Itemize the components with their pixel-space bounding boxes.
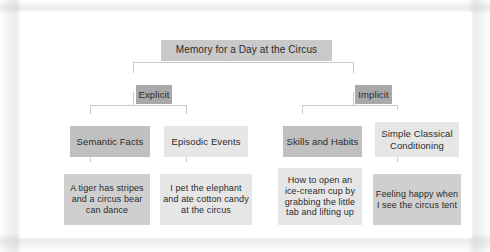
node-root[interactable]: Memory for a Day at the Circus bbox=[161, 40, 332, 61]
node-episodic-events[interactable]: Episodic Events bbox=[164, 126, 248, 157]
connector-to-implicit bbox=[353, 62, 354, 73]
connector-explicit-stem bbox=[133, 92, 134, 105]
connector-to-semantic-facts bbox=[90, 105, 91, 114]
node-skills-and-habits-example[interactable]: How to open an ice-cream cup by grabbing… bbox=[278, 168, 362, 225]
node-implicit[interactable]: Implicit bbox=[355, 85, 392, 104]
node-simple-classical-conditioning[interactable]: Simple Classical Conditioning bbox=[375, 122, 459, 157]
connector-to-skills-and-habits bbox=[302, 105, 303, 114]
node-explicit[interactable]: Explicit bbox=[136, 85, 172, 104]
connector-implicit-bus bbox=[302, 105, 398, 106]
diagram-page: Memory for a Day at the Circus Explicit … bbox=[0, 0, 490, 252]
node-semantic-facts-example[interactable]: A tiger has stripes and a circus bear ca… bbox=[64, 174, 150, 225]
node-simple-classical-conditioning-example[interactable]: Feeling happy when I see the circus tent bbox=[373, 174, 461, 225]
connector-implicit-stem bbox=[353, 92, 354, 105]
diagram-panel: Memory for a Day at the Circus Explicit … bbox=[20, 12, 472, 238]
node-episodic-events-example[interactable]: I pet the elephant and ate cotton candy … bbox=[160, 174, 252, 225]
node-skills-and-habits[interactable]: Skills and Habits bbox=[283, 126, 362, 157]
connector-to-episodic-events bbox=[186, 105, 187, 114]
connector-to-explicit bbox=[133, 62, 134, 73]
connector-level1-bus bbox=[133, 62, 354, 63]
connector-to-simple-classical-conditioning bbox=[397, 105, 398, 110]
connector-explicit-bus bbox=[90, 105, 187, 106]
node-semantic-facts[interactable]: Semantic Facts bbox=[70, 126, 150, 157]
